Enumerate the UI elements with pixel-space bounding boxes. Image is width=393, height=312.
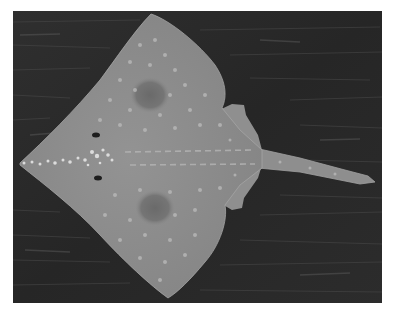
skate-photo: Skate (ray) viewed from above on dark wo… (13, 11, 382, 303)
eye-lower-icon (94, 176, 102, 181)
eyespot-lower (135, 190, 175, 226)
eye-upper-icon (92, 133, 100, 138)
eyespot-upper (130, 77, 170, 113)
skate-illustration (13, 11, 382, 303)
